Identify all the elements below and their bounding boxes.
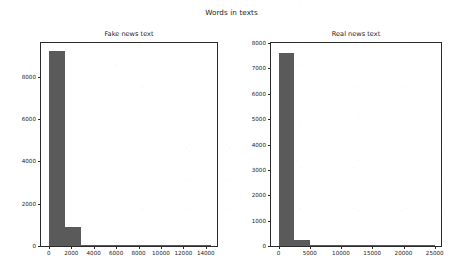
- x-axis-tick-label: 12000: [174, 250, 192, 256]
- y-axis-tick-label: 5000: [252, 116, 266, 122]
- y-axis-tick: [268, 221, 271, 222]
- histogram-bar: [294, 240, 310, 246]
- x-axis-tick-label: 4000: [87, 250, 101, 256]
- y-axis-tick: [268, 145, 271, 146]
- x-axis-tick-label: 20000: [395, 250, 413, 256]
- x-axis-tick: [279, 246, 280, 249]
- y-axis-tick-label: 0: [262, 243, 266, 249]
- histogram-bar: [279, 53, 295, 246]
- histogram-bar: [195, 245, 211, 246]
- chart-title-fake-news-text: Fake news text: [41, 30, 217, 38]
- y-axis-tick-label: 8000: [252, 40, 266, 46]
- histogram-bar: [98, 245, 114, 246]
- histogram-bar: [419, 245, 435, 246]
- chart-title-real-news-text: Real news text: [271, 30, 441, 38]
- y-axis-tick-label: 2000: [252, 192, 266, 198]
- x-axis-tick: [161, 246, 162, 249]
- x-axis-tick: [435, 246, 436, 249]
- x-axis-tick-label: 0: [277, 250, 281, 256]
- y-axis-tick: [38, 204, 41, 205]
- histogram-bar: [65, 227, 81, 246]
- x-axis-tick-label: 10000: [332, 250, 350, 256]
- histogram-bar: [388, 245, 404, 246]
- x-axis-tick-label: 10000: [152, 250, 170, 256]
- y-axis-tick-label: 2000: [22, 201, 36, 207]
- y-axis-tick: [38, 77, 41, 78]
- x-axis-tick: [372, 246, 373, 249]
- histogram-bar: [163, 245, 179, 246]
- y-axis-tick-label: 1000: [252, 218, 266, 224]
- x-axis-tick: [139, 246, 140, 249]
- figure-suptitle: Words in texts: [0, 8, 463, 17]
- x-axis-tick: [94, 246, 95, 249]
- x-axis-tick: [116, 246, 117, 249]
- figure: Words in texts Fake news text 0200040006…: [0, 0, 463, 275]
- x-axis-tick-label: 2000: [64, 250, 78, 256]
- x-axis-tick: [49, 246, 50, 249]
- plot-area-fake-news-text: [41, 43, 217, 246]
- x-axis-tick-label: 8000: [131, 250, 145, 256]
- x-axis-tick: [341, 246, 342, 249]
- y-axis-tick: [268, 68, 271, 69]
- y-axis-tick: [268, 94, 271, 95]
- x-axis-tick: [183, 246, 184, 249]
- chart-real-news-text: Real news text 0100020003000400050006000…: [270, 42, 442, 247]
- y-axis-tick-label: 4000: [252, 142, 266, 148]
- x-axis-tick-label: 25000: [426, 250, 444, 256]
- y-axis-tick: [268, 246, 271, 247]
- y-axis-tick-label: 4000: [22, 158, 36, 164]
- y-axis-tick-label: 8000: [22, 74, 36, 80]
- x-axis-tick-label: 14000: [197, 250, 215, 256]
- y-axis-tick-label: 7000: [252, 65, 266, 71]
- y-axis-tick: [38, 119, 41, 120]
- histogram-bar: [179, 245, 195, 246]
- y-axis-tick: [268, 119, 271, 120]
- x-axis-tick: [206, 246, 207, 249]
- histogram-bar: [81, 245, 97, 246]
- histogram-bar: [372, 245, 388, 246]
- x-axis-tick-label: 5000: [303, 250, 317, 256]
- histogram-bar: [357, 245, 373, 246]
- plot-area-real-news-text: [271, 43, 441, 246]
- y-axis-tick: [38, 161, 41, 162]
- y-axis-tick-label: 3000: [252, 167, 266, 173]
- x-axis-tick-label: 0: [47, 250, 51, 256]
- y-axis-tick-label: 6000: [252, 91, 266, 97]
- y-axis-tick-label: 6000: [22, 116, 36, 122]
- histogram-bar: [49, 51, 65, 246]
- y-axis-tick-label: 0: [32, 243, 36, 249]
- histogram-bar: [325, 245, 341, 246]
- x-axis-tick: [310, 246, 311, 249]
- y-axis-tick: [268, 43, 271, 44]
- histogram-bar: [310, 245, 326, 246]
- x-axis-tick: [71, 246, 72, 249]
- y-axis-tick: [268, 170, 271, 171]
- x-axis-tick-label: 15000: [363, 250, 381, 256]
- chart-fake-news-text: Fake news text 0200040006000800002000400…: [40, 42, 218, 247]
- histogram-bar: [341, 245, 357, 246]
- y-axis-tick: [268, 195, 271, 196]
- histogram-bar: [404, 245, 420, 246]
- y-axis-tick: [38, 246, 41, 247]
- x-axis-tick-label: 6000: [109, 250, 123, 256]
- x-axis-tick: [404, 246, 405, 249]
